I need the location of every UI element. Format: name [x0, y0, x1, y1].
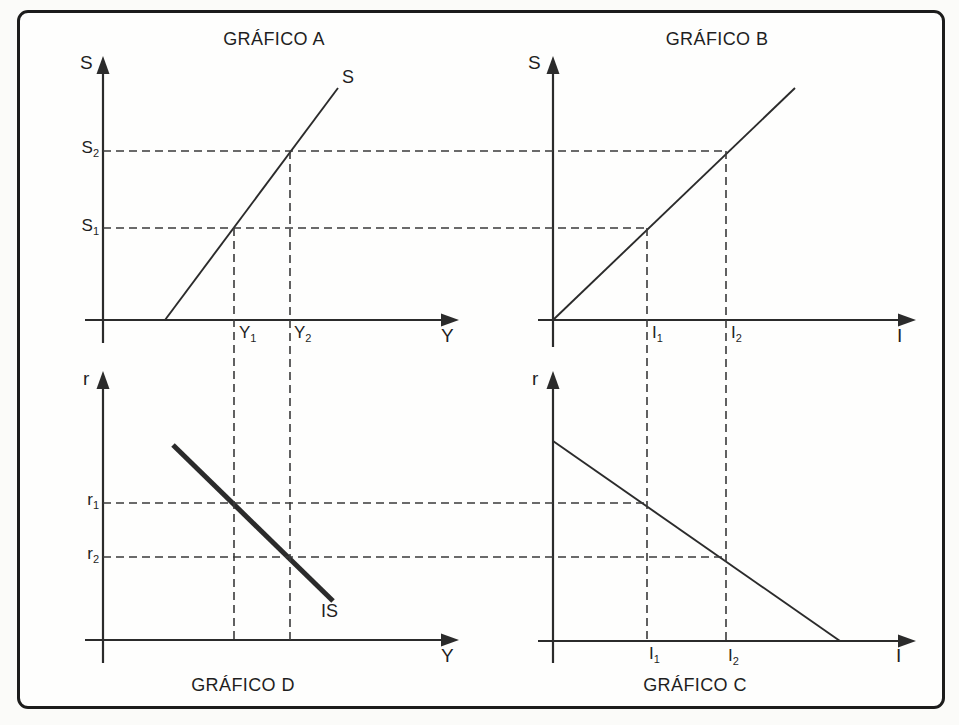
- panel-d-title: GRÁFICO D: [148, 675, 338, 696]
- panel-c-y-axis-label: r: [532, 368, 538, 390]
- four-panel-diagram: [0, 0, 959, 725]
- label-i1-top: I1: [652, 323, 663, 344]
- panel-d-y-axis-label: r: [83, 368, 89, 390]
- scanned-figure: GRÁFICO A GRÁFICO B GRÁFICO D GRÁFICO C …: [0, 0, 959, 725]
- label-r1: r1: [62, 490, 99, 511]
- panel-b-x-axis-label: I: [897, 325, 902, 347]
- panel-c-x-axis-label: I: [896, 645, 901, 667]
- panel-d-y-arrowhead: [97, 371, 110, 389]
- s-equals-i-curve: [553, 88, 795, 320]
- savings-curve-label: S: [342, 67, 354, 88]
- panel-a-x-axis-label: Y: [441, 325, 454, 347]
- panel-b-y-axis-label: S: [528, 52, 541, 74]
- is-curve: [173, 445, 333, 601]
- savings-curve: [165, 88, 338, 320]
- panel-b-y-arrowhead: [547, 56, 560, 74]
- panel-c-y-arrowhead: [547, 371, 560, 389]
- label-s1: S1: [62, 216, 99, 237]
- panel-a-y-arrowhead: [97, 56, 110, 74]
- panel-a-title: GRÁFICO A: [179, 29, 369, 50]
- label-i1-bottom: I1: [649, 644, 660, 665]
- panel-a-y-axis-label: S: [80, 52, 93, 74]
- investment-demand-curve: [553, 441, 840, 641]
- label-r2: r2: [62, 544, 99, 565]
- is-curve-label: IS: [321, 601, 338, 622]
- panel-d-x-axis-label: Y: [441, 645, 454, 667]
- label-s2: S2: [62, 138, 99, 159]
- panel-c-title: GRÁFICO C: [600, 675, 790, 696]
- label-i2-bottom: I2: [728, 646, 739, 667]
- label-i2-top: I2: [731, 323, 742, 344]
- panel-b-title: GRÁFICO B: [622, 29, 812, 50]
- label-y1: Y1: [239, 323, 256, 344]
- label-y2: Y2: [294, 323, 311, 344]
